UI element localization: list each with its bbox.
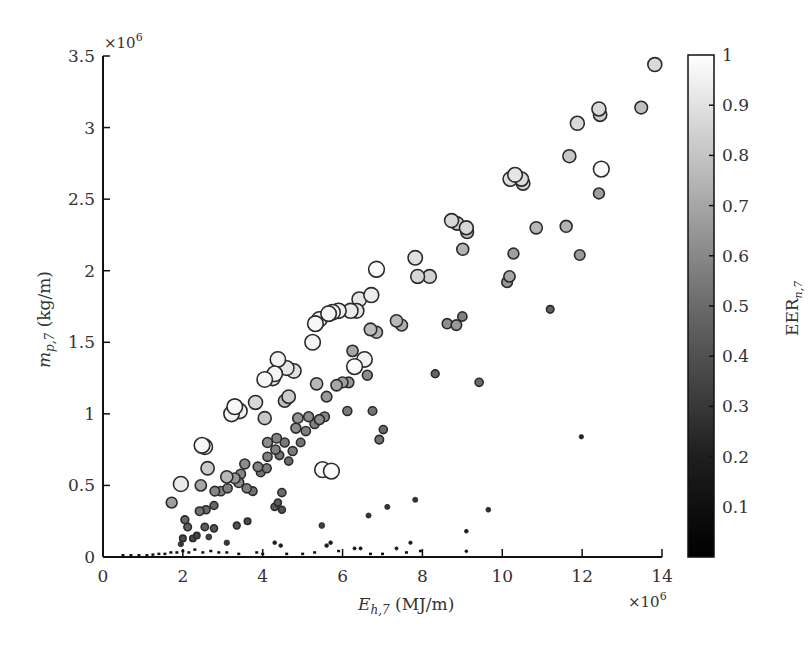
data-point: [201, 462, 214, 475]
data-point: [347, 345, 358, 356]
y-tick-label: 0.5: [68, 475, 95, 495]
data-point: [193, 548, 196, 551]
data-point: [648, 58, 662, 72]
data-point: [362, 370, 372, 380]
y-tick-label: 2.5: [68, 189, 95, 209]
svg-text:mp,7 (kg/m): mp,7 (kg/m): [34, 271, 57, 368]
data-point: [151, 553, 154, 556]
data-point: [263, 452, 272, 461]
scatter-chart: 02468101214 00.511.522.533.5 Eh,7 (MJ/m)…: [0, 0, 808, 649]
data-point: [279, 544, 283, 548]
data-point: [413, 497, 418, 502]
data-point: [465, 550, 468, 553]
data-point: [409, 541, 412, 544]
x-axis-multiplier: ×106: [628, 590, 667, 611]
colorbar-tick-label: 0.9: [722, 95, 749, 115]
data-point: [240, 459, 250, 469]
data-point: [227, 399, 243, 415]
data-point: [253, 462, 262, 471]
data-points: [121, 58, 661, 557]
x-axis-title: Eh,7 (MJ/m): [357, 594, 454, 617]
data-point: [329, 541, 333, 545]
data-point: [390, 315, 402, 327]
data-point: [324, 463, 340, 479]
data-point: [368, 407, 377, 416]
data-point: [325, 544, 329, 548]
data-point: [593, 161, 609, 177]
data-point: [304, 412, 314, 422]
data-point: [296, 438, 305, 447]
data-point: [224, 540, 229, 545]
data-point: [288, 447, 297, 456]
data-point: [301, 553, 304, 556]
data-point: [451, 320, 462, 331]
data-point: [313, 551, 316, 554]
data-point: [560, 220, 572, 232]
data-point: [291, 423, 301, 433]
data-point: [262, 464, 271, 473]
data-point: [464, 529, 468, 533]
data-point: [331, 380, 342, 391]
colorbar-tick-label: 0.3: [722, 396, 749, 416]
data-point: [570, 116, 584, 130]
colorbar-ticks: 0.10.20.30.40.50.60.70.80.91: [709, 45, 749, 517]
data-point: [411, 270, 425, 284]
data-point: [217, 551, 220, 554]
data-point: [244, 518, 250, 524]
data-point: [270, 352, 285, 367]
data-point: [271, 445, 280, 454]
data-point: [579, 435, 583, 439]
data-point: [395, 547, 398, 550]
data-point: [408, 251, 422, 265]
colorbar-tick-label: 0.2: [722, 447, 749, 467]
x-tick-label: 10: [491, 566, 513, 586]
colorbar-tick-label: 0.1: [722, 497, 749, 517]
data-point: [375, 435, 384, 444]
data-point: [311, 378, 323, 390]
data-point: [285, 553, 288, 556]
data-point: [445, 214, 459, 228]
data-point: [431, 370, 439, 378]
data-point: [343, 407, 352, 416]
y-tick-label: 3: [84, 118, 95, 138]
data-point: [592, 102, 606, 116]
x-tick-label: 0: [98, 566, 109, 586]
data-point: [475, 378, 483, 386]
data-point: [194, 438, 210, 454]
y-tick-label: 2: [84, 261, 95, 281]
colorbar-title: EERn,7: [782, 281, 805, 336]
y-tick-label: 1.5: [68, 332, 95, 352]
data-point: [285, 457, 293, 465]
y-axis-title: mp,7 (kg/m): [34, 271, 57, 368]
data-point: [201, 523, 208, 530]
data-point: [574, 250, 585, 261]
y-axis-multiplier: ×106: [104, 31, 143, 52]
data-point: [210, 486, 219, 495]
data-point: [508, 167, 523, 182]
x-tick-label: 14: [651, 566, 673, 586]
data-point: [321, 306, 336, 321]
data-point: [314, 415, 324, 425]
data-point: [273, 541, 277, 545]
data-point: [258, 412, 271, 425]
data-point: [221, 471, 233, 483]
data-point: [337, 550, 340, 553]
colorbar-tick-label: 0.5: [722, 296, 749, 316]
data-point: [206, 534, 212, 540]
data-point: [225, 551, 228, 554]
data-point: [379, 426, 387, 434]
colorbar-tick-label: 0.7: [722, 196, 749, 216]
data-point: [457, 243, 469, 255]
data-point: [459, 221, 473, 235]
data-point: [369, 553, 372, 556]
y-tick-label: 3.5: [68, 46, 95, 66]
colorbar-tick-label: 1: [722, 45, 733, 65]
data-point: [321, 391, 332, 402]
data-point: [486, 507, 491, 512]
data-point: [364, 288, 379, 303]
data-point: [419, 550, 422, 553]
data-point: [305, 335, 320, 350]
y-tick-label: 0: [84, 547, 95, 567]
data-point: [237, 553, 240, 556]
data-point: [293, 413, 303, 423]
